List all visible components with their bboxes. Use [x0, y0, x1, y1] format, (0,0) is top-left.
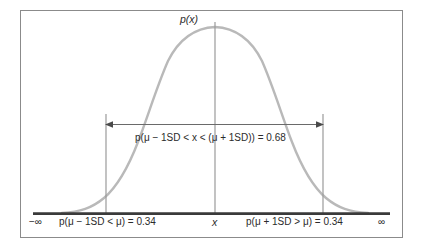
normal-distribution-figure: p(x) p(μ − 1SD < x < (μ + 1SD)) = 0.68 −… [0, 0, 421, 249]
curve-peak-label: p(x) [180, 14, 198, 25]
negative-infinity-label: −∞ [29, 217, 42, 227]
positive-infinity-label: ∞ [378, 217, 385, 227]
right-area-probability-label: p(μ + 1SD > μ) = 0.34 [246, 217, 343, 227]
left-area-probability-label: p(μ − 1SD < μ) = 0.34 [59, 217, 156, 227]
distribution-plot-canvas [0, 0, 421, 249]
x-axis-center-label: x [212, 217, 217, 228]
interval-probability-label: p(μ − 1SD < x < (μ + 1SD)) = 0.68 [135, 133, 286, 143]
